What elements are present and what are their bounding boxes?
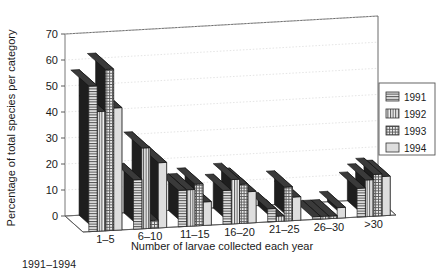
y-tick-label: 70: [46, 28, 58, 40]
y-tick-label: 60: [46, 54, 58, 66]
x-tick-label: 16–20: [224, 226, 255, 238]
figure-caption: 1991–1994: [22, 258, 76, 270]
x-tick-label: 26–30: [314, 221, 345, 233]
legend-label-1992: 1992: [404, 109, 427, 120]
x-tick-label: 21–25: [269, 223, 300, 235]
x-tick-label: 1–5: [96, 233, 114, 245]
legend-label-1994: 1994: [404, 143, 427, 154]
legend: 1991199219931994: [379, 83, 435, 155]
x-tick-label: >30: [364, 218, 383, 230]
y-tick-label: 30: [46, 132, 58, 144]
legend-swatch-1991: [386, 92, 399, 101]
legend-label-1993: 1993: [404, 126, 427, 137]
bar-chart-figure: 010203040506070 1–56–1011–1516–2021–2526…: [0, 0, 440, 280]
x-tick-label: 11–15: [180, 228, 210, 240]
y-axis: 010203040506070: [46, 28, 65, 222]
y-tick-label: 20: [46, 158, 58, 170]
y-tick-label: 40: [46, 106, 58, 118]
y-axis-label: Percentage of total species per category: [5, 29, 17, 226]
legend-swatch-1994: [386, 143, 399, 152]
y-tick-label: 50: [46, 80, 58, 92]
legend-label-1991: 1991: [404, 92, 427, 103]
y-tick-label: 0: [52, 210, 58, 222]
legend-swatch-1993: [386, 126, 399, 135]
y-tick-label: 10: [46, 184, 58, 196]
chart-canvas: 010203040506070 1–56–1011–1516–2021–2526…: [0, 0, 440, 280]
legend-swatch-1992: [386, 109, 399, 118]
x-axis-label: Number of larvae collected each year: [131, 240, 314, 252]
